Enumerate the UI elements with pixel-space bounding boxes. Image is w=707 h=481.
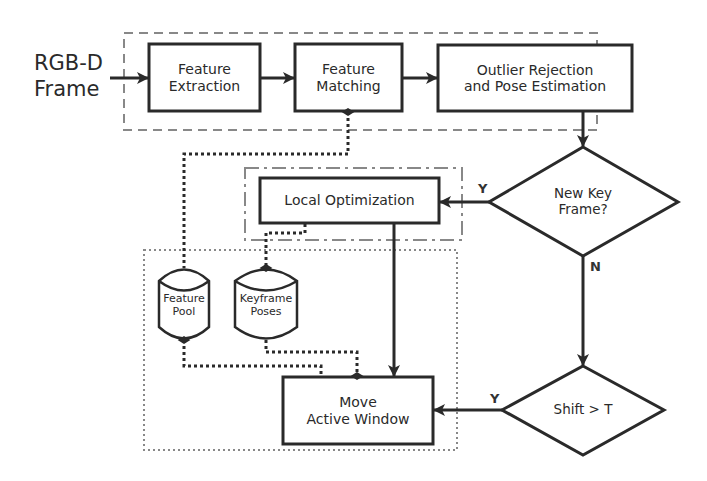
local-optimization-text: Local Optimization xyxy=(284,192,414,208)
move-active-window-line1: Move xyxy=(339,394,377,410)
edge-label-new-key-frame-no: N xyxy=(590,260,601,275)
input-label: RGB-D Frame xyxy=(34,50,103,103)
new-key-frame-line1: New Key xyxy=(554,186,612,202)
input-line2: Frame xyxy=(34,76,103,102)
move-active-window-line2: Active Window xyxy=(307,411,410,427)
feature-matching-line1: Feature xyxy=(322,61,375,77)
outlier-rejection-line1: Outlier Rejection xyxy=(477,62,594,78)
feature-extraction-label: Feature Extraction xyxy=(149,44,260,111)
feature-extraction-line1: Feature xyxy=(178,61,231,77)
outlier-rejection-label: Outlier Rejection and Pose Estimation xyxy=(438,45,632,111)
shift-threshold-label: Shift > T xyxy=(533,399,633,421)
feature-matching-line2: Matching xyxy=(316,78,380,94)
move-active-window-label: Move Active Window xyxy=(283,377,433,444)
input-line1: RGB-D xyxy=(34,50,103,76)
feature-pool-label: Feature Pool xyxy=(159,290,209,322)
edge-label-shift-yes: Y xyxy=(490,392,499,407)
keyframe-poses-line2: Poses xyxy=(250,306,281,319)
keyframe-poses-label: Keyframe Poses xyxy=(235,290,297,322)
local-optimization-label: Local Optimization xyxy=(260,178,439,223)
new-key-frame-label: New Key Frame? xyxy=(533,180,633,224)
outlier-rejection-line2: and Pose Estimation xyxy=(464,78,606,94)
feature-pool-line2: Pool xyxy=(173,306,196,319)
edge-label-new-key-frame-yes: Y xyxy=(478,182,487,197)
feature-extraction-line2: Extraction xyxy=(169,78,240,94)
feature-matching-label: Feature Matching xyxy=(295,44,402,111)
shift-threshold-text: Shift > T xyxy=(554,402,613,418)
new-key-frame-line2: Frame? xyxy=(558,202,607,218)
